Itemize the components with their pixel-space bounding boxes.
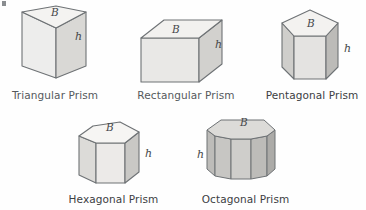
pentagonal-prism-caption: Pentagonal Prism (252, 89, 366, 101)
octagonal-prism-base-label: B (240, 116, 248, 128)
triangular-prism-caption: Triangular Prism (0, 89, 110, 101)
octagonal-prism-front-right-face (251, 136, 267, 179)
octagonal-prism-left-face (215, 136, 231, 179)
triangular-prism-base-label: B (51, 6, 59, 18)
hexagonal-prism-front-face (96, 143, 125, 183)
hexagonal-prism-height-label: h (145, 147, 152, 160)
scan-artifact-speck (2, 1, 6, 6)
rectangular-prism-height-label: h (215, 38, 222, 51)
octagonal-prism-height-label: h (197, 148, 204, 161)
prisms-figure: B h Triangular Prism B h Rectangular Pri… (0, 0, 366, 210)
triangular-prism-height-label: h (75, 30, 82, 43)
rectangular-prism-front-face (141, 38, 199, 82)
pentagonal-prism-base-label: B (307, 17, 315, 29)
rectangular-prism-base-label: B (172, 23, 180, 35)
pentagonal-prism-front-face (294, 36, 326, 79)
octagonal-prism-right-edge-face (267, 130, 275, 176)
rectangular-prism-caption: Rectangular Prism (126, 89, 246, 101)
hexagonal-prism-base-label: B (106, 121, 114, 133)
hexagonal-prism-left-face (79, 136, 96, 183)
octagonal-prism-caption: Octagonal Prism (188, 193, 303, 205)
octagonal-prism-left-edge-face (207, 130, 215, 176)
octagonal-prism-front-left-face (231, 139, 251, 179)
pentagonal-prism-height-label: h (344, 42, 351, 55)
hexagonal-prism-caption: Hexagonal Prism (56, 193, 171, 205)
